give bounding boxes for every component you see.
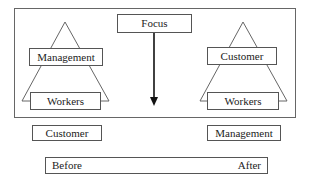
down-arrow-icon <box>150 97 158 106</box>
before-workers-box: Workers <box>30 92 101 110</box>
focus-label-box: Focus <box>117 14 192 33</box>
focus-label: Focus <box>141 18 167 29</box>
after-customer-box: Customer <box>207 47 277 65</box>
before-customer-label: Customer <box>46 128 89 139</box>
after-workers-label: Workers <box>225 96 262 107</box>
before-customer-box: Customer <box>32 125 102 141</box>
timeline-bar: Before After <box>45 157 268 174</box>
after-customer-label: Customer <box>221 51 264 62</box>
before-workers-label: Workers <box>47 96 84 107</box>
timeline-before-label: Before <box>52 160 82 171</box>
after-workers-box: Workers <box>207 92 279 110</box>
before-management-label: Management <box>37 52 94 63</box>
before-management-box: Management <box>29 48 103 66</box>
after-management-label: Management <box>215 128 272 139</box>
timeline-after-label: After <box>238 160 261 171</box>
after-management-box: Management <box>207 125 281 141</box>
